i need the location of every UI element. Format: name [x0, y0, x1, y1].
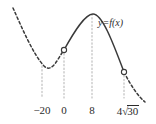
curve-dashed-right-branch: [124, 72, 145, 102]
radical-expression: 4√30: [117, 105, 140, 117]
radical-radicand: 30: [127, 105, 139, 117]
curve-label: y=f(x): [98, 18, 123, 28]
tick-label-four-root-thirty: 4√30: [108, 105, 148, 117]
curve-label-close-paren: ): [120, 17, 123, 28]
open-point-at-zero: [61, 47, 66, 52]
curve-dashed-left-branch: [13, 8, 64, 68]
open-point-at-four-root-thirty: [121, 69, 126, 74]
tick-label-zero: 0: [54, 105, 74, 116]
function-graph-figure: y=f(x) −20 0 8 4√30: [0, 0, 156, 124]
tick-label-eight: 8: [82, 105, 102, 116]
